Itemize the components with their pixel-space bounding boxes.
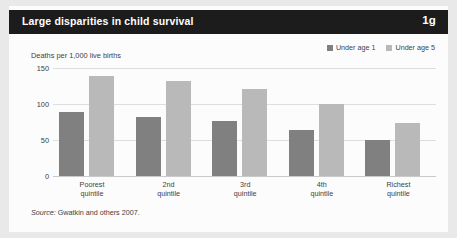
- bar-group: 2ndquintile: [130, 68, 207, 176]
- x-axis-category-line: quintile: [283, 189, 361, 198]
- gridline: 0: [53, 176, 436, 177]
- figure-number-badge: 1g: [422, 14, 436, 26]
- figure-card: Large disparities in child survival 1g U…: [9, 6, 448, 232]
- y-axis-tick-label: 100: [37, 100, 49, 109]
- bar-under-age-1: [212, 121, 237, 176]
- legend-swatch-under-age-5: [386, 45, 392, 51]
- legend-label: Under age 5: [395, 43, 435, 52]
- source-label: Source:: [31, 208, 56, 217]
- y-axis-tick-label: 50: [41, 136, 49, 145]
- x-axis-category-line: quintile: [53, 189, 131, 198]
- x-axis-category-label: 3rdquintile: [206, 180, 284, 198]
- figure-header-band: Large disparities in child survival 1g: [9, 10, 448, 34]
- bar-under-age-5: [319, 104, 344, 176]
- y-axis-tick-label: 150: [37, 64, 49, 73]
- legend-swatch-under-age-1: [327, 45, 333, 51]
- legend-item: Under age 1: [327, 43, 376, 52]
- figure-container: Large disparities in child survival 1g U…: [0, 0, 457, 238]
- bar-group: 3rdquintile: [206, 68, 283, 176]
- x-axis-category-label: Richestquintile: [359, 180, 437, 198]
- y-axis-title: Deaths per 1,000 live births: [31, 51, 121, 60]
- x-axis-category-line: Poorest: [53, 180, 131, 189]
- x-axis-category-line: quintile: [206, 189, 284, 198]
- x-axis-category-line: quintile: [130, 189, 208, 198]
- bar-under-age-1: [59, 112, 84, 176]
- bar-under-age-1: [136, 117, 161, 176]
- bar-under-age-5: [89, 76, 114, 176]
- bar-group: 4thquintile: [283, 68, 360, 176]
- bar-under-age-1: [289, 130, 314, 176]
- legend-item: Under age 5: [386, 43, 435, 52]
- source-text: Gwatkin and others 2007.: [56, 208, 140, 217]
- plot-area: 050100150Poorestquintile2ndquintile3rdqu…: [53, 68, 436, 176]
- bar-group: Poorestquintile: [53, 68, 130, 176]
- x-axis-category-label: 2ndquintile: [130, 180, 208, 198]
- y-axis-tick-label: 0: [45, 172, 49, 181]
- legend-label: Under age 1: [336, 43, 376, 52]
- chart-legend: Under age 1Under age 5: [327, 43, 435, 52]
- x-axis-category-line: Richest: [359, 180, 437, 189]
- bar-under-age-5: [242, 89, 267, 176]
- page-title: Large disparities in child survival: [22, 15, 194, 27]
- x-axis-category-line: quintile: [359, 189, 437, 198]
- x-axis-category-label: Poorestquintile: [53, 180, 131, 198]
- bar-under-age-5: [395, 123, 420, 176]
- bar-under-age-5: [166, 81, 191, 176]
- x-axis-category-line: 2nd: [130, 180, 208, 189]
- bar-group: Richestquintile: [359, 68, 436, 176]
- bar-under-age-1: [365, 140, 390, 176]
- x-axis-category-line: 3rd: [206, 180, 284, 189]
- x-axis-category-line: 4th: [283, 180, 361, 189]
- x-axis-category-label: 4thquintile: [283, 180, 361, 198]
- source-note: Source: Gwatkin and others 2007.: [31, 208, 140, 217]
